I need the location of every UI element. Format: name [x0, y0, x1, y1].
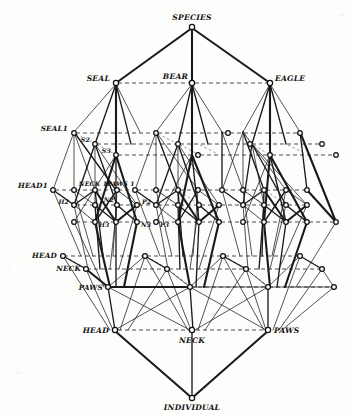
label-neck1: NECK 1 — [78, 180, 107, 187]
node-t2r3-i[interactable] — [241, 220, 246, 225]
node-head-bottom[interactable] — [112, 327, 117, 332]
node-t3r3-d[interactable] — [332, 285, 337, 290]
node-t2r3-c[interactable] — [114, 220, 119, 225]
node-seal[interactable] — [113, 80, 118, 85]
node-s2[interactable] — [93, 142, 98, 147]
node-t3r3-b[interactable] — [188, 285, 193, 290]
label-bear: BEAR — [162, 72, 188, 81]
node-t2r2-g[interactable] — [197, 203, 202, 208]
lattice-diagram: SPECIES SEAL BEAR EAGLE SEAL1 S2 S3 HEAD… — [0, 0, 353, 416]
node-t2r1-k[interactable] — [262, 188, 267, 193]
label-neck-mid: NECK — [55, 264, 81, 273]
node-p2[interactable] — [135, 203, 140, 208]
node-t2r3-l[interactable] — [305, 220, 310, 225]
node-paws-mid[interactable] — [106, 285, 111, 290]
node-t2r3-g[interactable] — [197, 220, 202, 225]
node-t1r3-b[interactable] — [196, 153, 201, 158]
node-t3r3-c[interactable] — [266, 285, 271, 290]
node-t1r1-c[interactable] — [226, 131, 231, 136]
node-seal1[interactable] — [72, 131, 77, 136]
label-individual: INDIVIDUAL — [163, 403, 220, 412]
node-paws1[interactable] — [115, 188, 120, 193]
node-s3[interactable] — [114, 153, 119, 158]
node-t2r1-g[interactable] — [176, 188, 181, 193]
label-n3: N3 — [140, 221, 152, 228]
node-neck-mid[interactable] — [84, 267, 89, 272]
node-t2r1-m[interactable] — [305, 188, 310, 193]
label-paws-mid: PAWS — [78, 283, 103, 292]
tier3-to-bottom-edges — [63, 256, 334, 330]
node-t2r2-l[interactable] — [305, 203, 310, 208]
node-t3r1-d[interactable] — [298, 254, 303, 259]
node-t1r3-c[interactable] — [268, 153, 273, 158]
label-head-mid: HEAD — [31, 251, 57, 260]
node-t1r3-d[interactable] — [334, 153, 339, 158]
node-h3[interactable] — [93, 220, 98, 225]
label-head-bottom: HEAD — [82, 326, 109, 335]
node-t2r2-h[interactable] — [217, 203, 222, 208]
node-t2r2-j[interactable] — [262, 203, 267, 208]
node-t2r1-j[interactable] — [241, 188, 246, 193]
node-t2r2-f[interactable] — [176, 203, 181, 208]
label-seal1: SEAL1 — [41, 124, 68, 133]
node-t3r1-c[interactable] — [221, 254, 226, 259]
label-eagle: EAGLE — [274, 74, 305, 83]
node-t2r3-h[interactable] — [217, 220, 222, 225]
node-t3r1-b[interactable] — [143, 254, 148, 259]
node-paws-bottom[interactable] — [265, 327, 270, 332]
node-t2r3-j[interactable] — [262, 220, 267, 225]
label-h2: H2 — [57, 198, 69, 205]
node-t1r1-d[interactable] — [298, 131, 303, 136]
node-head1[interactable] — [51, 188, 56, 193]
node-head-mid[interactable] — [61, 254, 66, 259]
node-t2r2-i[interactable] — [241, 203, 246, 208]
label-neck-bottom: NECK — [178, 336, 205, 345]
node-t2r1-f[interactable] — [154, 188, 159, 193]
node-t1r2-d[interactable] — [320, 142, 325, 147]
node-t2r1-i[interactable] — [220, 188, 225, 193]
top-edges — [116, 28, 270, 83]
node-t1r2-b[interactable] — [176, 142, 181, 147]
node-t2r3-f[interactable] — [176, 220, 181, 225]
node-t2r2-e[interactable] — [154, 203, 159, 208]
node-eagle[interactable] — [267, 80, 272, 85]
node-n3[interactable] — [135, 220, 140, 225]
node-h2[interactable] — [72, 203, 77, 208]
node-n2[interactable] — [115, 203, 120, 208]
node-t2r3-k[interactable] — [284, 220, 289, 225]
node-t2r3-m[interactable] — [334, 220, 339, 225]
node-t3r2-b[interactable] — [165, 267, 170, 272]
node-p3[interactable] — [154, 220, 159, 225]
node-t1r1-b[interactable] — [154, 131, 159, 136]
node-t2r2-b[interactable] — [93, 203, 98, 208]
node-species[interactable] — [189, 24, 194, 29]
node-bear[interactable] — [189, 80, 194, 85]
diagram-canvas: SPECIES SEAL BEAR EAGLE SEAL1 S2 S3 HEAD… — [0, 0, 353, 416]
node-t3r2-c[interactable] — [244, 267, 249, 272]
label-h3: H3 — [98, 221, 110, 228]
node-t2r1-b[interactable] — [72, 188, 77, 193]
label-paws-bottom: PAWS — [273, 326, 300, 335]
node-t2r1-e[interactable] — [133, 188, 138, 193]
label-seal: SEAL — [87, 74, 110, 83]
node-t1r2-c[interactable] — [248, 142, 253, 147]
node-t2r1-h[interactable] — [196, 188, 201, 193]
node-t2r2-k[interactable] — [284, 203, 289, 208]
label-p3: P3 — [159, 221, 170, 228]
node-t2r3-a[interactable] — [72, 220, 77, 225]
node-individual[interactable] — [189, 395, 194, 400]
node-t2r1-l[interactable] — [284, 188, 289, 193]
label-head1: HEAD1 — [17, 181, 48, 190]
label-p2: P2 — [141, 198, 152, 205]
label-paws1: PAWS 1 — [106, 180, 135, 187]
node-t3r2-d[interactable] — [320, 267, 325, 272]
node-neck1[interactable] — [93, 188, 98, 193]
label-n2: N2 — [103, 196, 115, 203]
label-species: SPECIES — [172, 13, 212, 22]
node-neck-bottom[interactable] — [189, 327, 194, 332]
label-s3: S3 — [102, 147, 112, 154]
label-s2: S2 — [81, 136, 91, 143]
